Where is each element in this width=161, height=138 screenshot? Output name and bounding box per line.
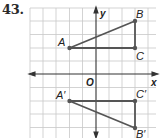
- origin-label: O: [86, 77, 94, 88]
- y-axis-label: y: [99, 8, 106, 19]
- grid: [30, 8, 156, 138]
- label-a-prime: A′: [55, 89, 66, 101]
- label-b: B: [136, 8, 143, 20]
- label-a: A: [57, 36, 65, 48]
- point-a-prime: [67, 99, 71, 103]
- triangle-a-prime-b-prime-c-prime: [70, 101, 136, 128]
- label-c-prime: C′: [136, 88, 147, 100]
- label-b-prime: B′: [136, 128, 146, 138]
- coordinate-graph: O x y A B C A′ B′ C′: [0, 0, 161, 138]
- y-axis-down-arrow-icon: [94, 132, 98, 138]
- axes: [29, 7, 158, 138]
- x-axis-label: x: [150, 77, 157, 88]
- x-axis-right-arrow-icon: [152, 72, 158, 76]
- label-c: C: [136, 50, 144, 62]
- point-a: [67, 46, 71, 50]
